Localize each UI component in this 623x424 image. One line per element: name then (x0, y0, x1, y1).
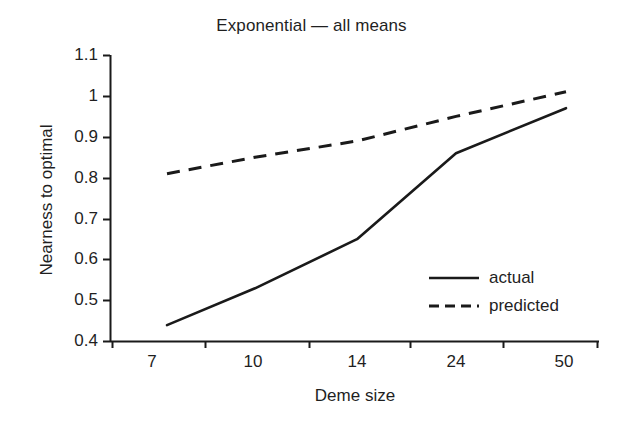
plot-area (0, 0, 623, 424)
dashed-line-sample-icon (428, 299, 480, 313)
legend-label-predicted: predicted (480, 296, 559, 316)
solid-line-sample-icon (428, 271, 480, 285)
chart-legend: actual predicted (428, 264, 598, 320)
legend-entry-actual: actual (428, 264, 598, 292)
legend-label-actual: actual (480, 268, 534, 288)
chart-figure: Exponential — all means Nearness to opti… (0, 0, 623, 424)
legend-entry-predicted: predicted (428, 292, 598, 320)
